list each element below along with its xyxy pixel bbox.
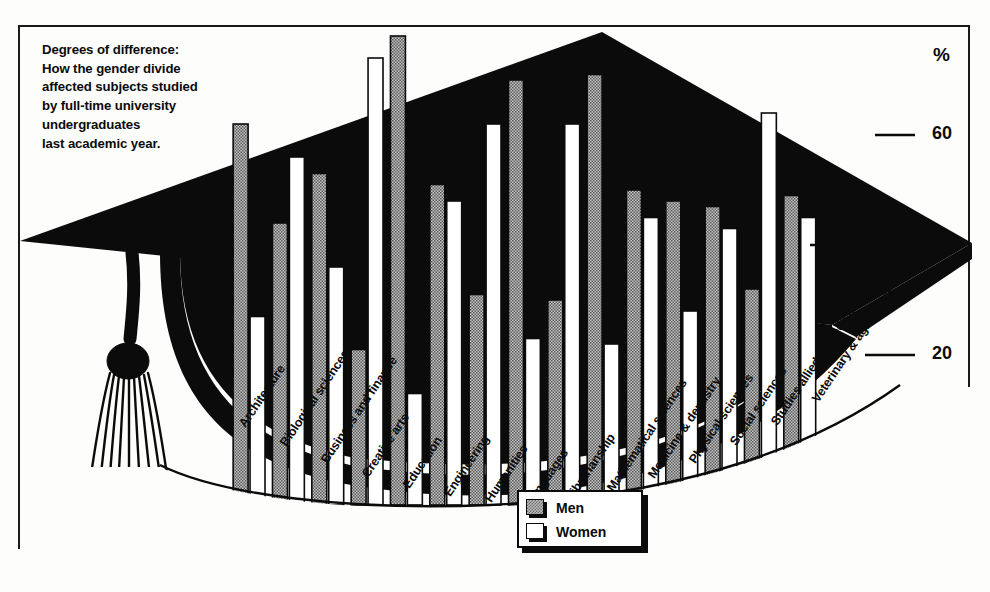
page-title: Degrees of difference: How the gender di… [42, 41, 342, 153]
y-tick-label-20: 20 [932, 343, 952, 364]
bar-women [761, 113, 776, 505]
bar-men [508, 80, 523, 505]
bar-women [486, 124, 501, 505]
chart-screenshot: Degrees of difference: How the gender di… [0, 0, 990, 592]
headline-line: last academic year. [42, 135, 342, 154]
y-tick-label-60: 60 [932, 123, 952, 144]
headline-line: undergraduates [42, 116, 342, 135]
bar-men [705, 207, 720, 506]
bar-women [565, 124, 580, 505]
bar-women [289, 157, 304, 505]
headline-line: affected subjects studied [42, 78, 342, 97]
y-tick-label-40: 40 [932, 233, 952, 254]
headline-line: Degrees of difference: [42, 41, 342, 60]
chart-frame: Degrees of difference: How the gender di… [18, 25, 970, 549]
chart-plot-area: Degrees of difference: How the gender di… [20, 27, 972, 551]
legend-swatch-men [526, 499, 547, 518]
axis-unit-label: % [933, 44, 950, 66]
tassel-icon [91, 253, 167, 490]
legend-item-women: Women [526, 521, 606, 543]
headline-line: How the gender divide [42, 60, 342, 79]
bar-men [469, 295, 484, 506]
headline-line: by full-time university [42, 97, 342, 116]
bar-men [233, 124, 248, 505]
chart-legend: Men Women [517, 490, 648, 553]
legend-swatch-women [526, 523, 547, 542]
legend-label-women: Women [556, 524, 606, 540]
bar-women [722, 229, 737, 506]
legend-label-men: Men [556, 500, 584, 516]
bar-women [447, 201, 462, 505]
legend-item-men: Men [526, 497, 584, 519]
